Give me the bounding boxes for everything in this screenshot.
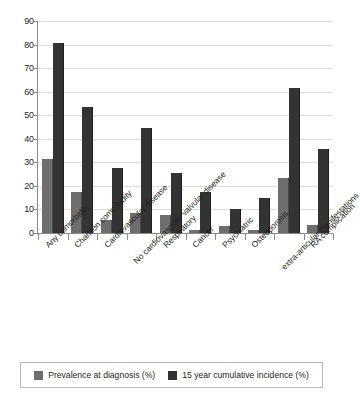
bar	[141, 128, 152, 233]
chart-legend: Prevalence at diagnosis (%) 15 year cumu…	[20, 362, 323, 388]
bar	[219, 226, 230, 233]
legend-swatch-prevalence-icon	[34, 371, 43, 380]
legend-label-prevalence: Prevalence at diagnosis (%)	[48, 370, 155, 380]
bar	[289, 88, 300, 233]
bars-layer	[0, 0, 343, 250]
legend-swatch-incidence-icon	[168, 371, 177, 380]
legend-label-incidence: 15 year cumulative incidence (%)	[182, 370, 309, 380]
legend-item-prevalence: Prevalence at diagnosis (%)	[34, 370, 155, 380]
plot-area: 0102030405060708090	[0, 0, 343, 250]
bar	[53, 43, 64, 233]
legend-item-incidence: 15 year cumulative incidence (%)	[168, 370, 309, 380]
x-axis-category-labels: Any comorbidityCharlson comorbidityCardi…	[0, 238, 343, 350]
bar	[42, 159, 53, 233]
